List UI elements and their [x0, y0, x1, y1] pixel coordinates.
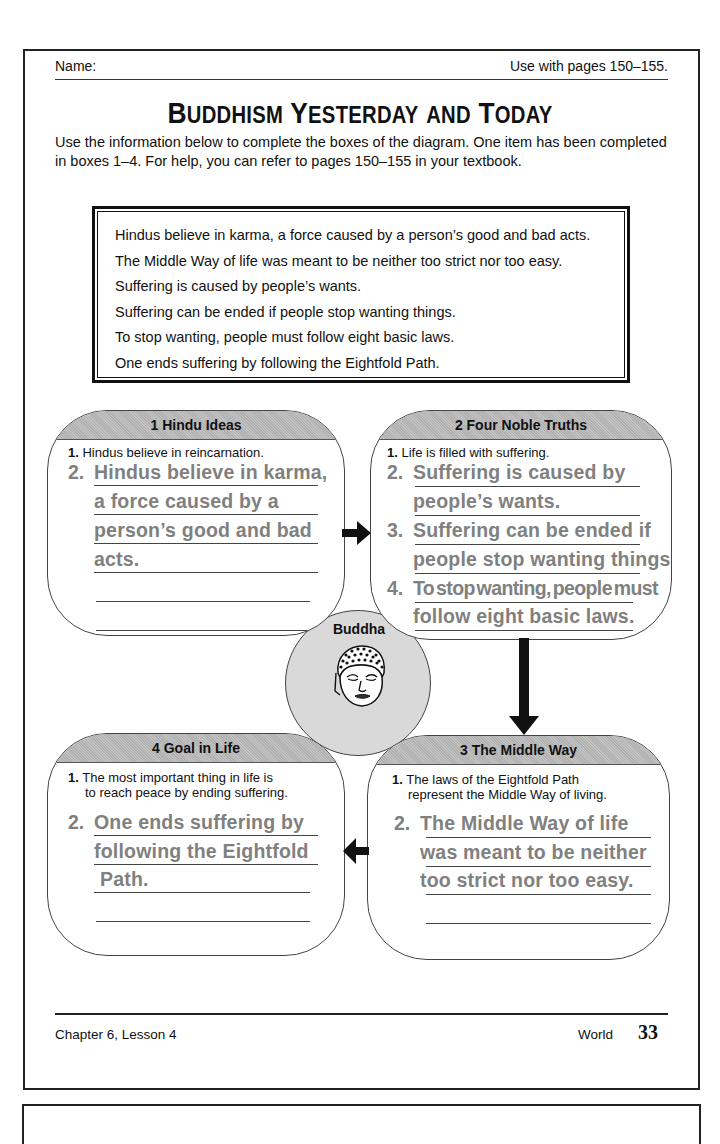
answer-line [426, 894, 651, 895]
info-item: To stop wanting, people must follow eigh… [115, 328, 624, 354]
given-text: Life is filled with suffering. [401, 445, 549, 460]
answer-line [426, 866, 651, 867]
answer-number: 2. [394, 812, 410, 835]
given-text: to reach peace by ending suffering. [85, 785, 288, 800]
item-number: 1. [68, 445, 79, 460]
answer-text: Hindus believe in karma, [94, 461, 327, 484]
answer-line [415, 486, 640, 487]
answer-text: acts. [94, 548, 139, 571]
arrow-right-icon [342, 520, 372, 546]
info-item: One ends suffering by following the Eigh… [115, 354, 624, 380]
info-item: Suffering is caused by people’s wants. [115, 277, 624, 303]
instructions: Use the information below to complete th… [55, 133, 675, 171]
answer-number: 2. [68, 461, 84, 484]
info-item: The Middle Way of life was meant to be n… [115, 252, 624, 278]
given-text: Hindus believe in reincarnation. [82, 445, 263, 460]
page-title: BUDDHISM YESTERDAY AND TODAY [43, 96, 677, 130]
answer-number: 2. [68, 811, 84, 834]
answer-line [94, 514, 318, 515]
subject-label: World [578, 1027, 613, 1042]
answer-text: too strict nor too easy. [420, 869, 634, 892]
answer-text: To stop wanting, people must [413, 577, 658, 600]
answer-line [415, 573, 640, 574]
info-box-inner: Hindus believe in karma, a force caused … [97, 211, 625, 378]
item-number: 1. [392, 772, 403, 787]
answer-text: Suffering is caused by [413, 461, 625, 484]
given-item: 1. Hindus believe in reincarnation. [68, 445, 264, 460]
box-title: 3 The Middle Way [368, 736, 669, 765]
title-cap: B [167, 96, 186, 129]
arrow-down-icon [508, 638, 540, 736]
arrow-left-icon [343, 837, 369, 865]
title-smallcaps: ESTERDAY [308, 102, 418, 128]
answer-line [426, 837, 651, 838]
answer-number: 3. [387, 519, 403, 542]
item-number: 1. [68, 770, 79, 785]
answer-text: a force caused by a [94, 490, 279, 513]
answer-text: Suffering can be ended if [413, 519, 651, 542]
answer-text: follow eight basic laws. [413, 605, 635, 628]
answer-line [415, 602, 633, 603]
answer-line [415, 544, 640, 545]
box-hindu-ideas: 1 Hindu Ideas 1. Hindus believe in reinc… [47, 410, 345, 636]
answer-line [94, 543, 318, 544]
box-middle-way: 3 The Middle Way 1. The laws of the Eigh… [367, 735, 670, 960]
answer-line [96, 630, 310, 631]
given-item: 1. The most important thing in life is [68, 770, 273, 785]
answer-line [96, 601, 310, 602]
chapter-lesson: Chapter 6, Lesson 4 [55, 1027, 177, 1042]
given-text: The laws of the Eightfold Path [406, 772, 579, 787]
pages-reference: Use with pages 150–155. [510, 58, 668, 74]
info-item: Suffering can be ended if people stop wa… [115, 303, 624, 329]
box-title: 1 Hindu Ideas [48, 411, 344, 440]
given-item: 1. Life is filled with suffering. [387, 445, 549, 460]
info-item: Hindus believe in karma, a force caused … [115, 226, 624, 252]
answer-number: 2. [387, 461, 403, 484]
answer-text: person’s good and bad [94, 519, 312, 542]
answer-line [94, 892, 310, 893]
answer-text: The Middle Way of life [420, 812, 628, 835]
next-page-frame [22, 1104, 701, 1144]
answer-line [96, 921, 310, 922]
answer-line [426, 923, 651, 924]
answer-line [94, 485, 318, 486]
answer-text: people’s wants. [413, 490, 560, 513]
answer-text: was meant to be neither [420, 841, 647, 864]
footer-rule [55, 1013, 668, 1015]
info-box: Hindus believe in karma, a force caused … [92, 206, 630, 383]
answer-line [415, 515, 640, 516]
title-smallcaps: ODAY [495, 102, 553, 128]
given-text: The most important thing in life is [82, 770, 273, 785]
name-label: Name: [55, 58, 96, 74]
answer-line [94, 572, 318, 573]
name-underline [55, 79, 668, 80]
title-smallcaps: UDDHISM [187, 102, 283, 128]
title-cap: T [478, 96, 494, 129]
answer-text: Path. [100, 868, 149, 891]
answer-line [94, 864, 318, 865]
given-text: represent the Middle Way of living. [408, 787, 607, 802]
box-goal-in-life: 4 Goal in Life 1. The most important thi… [47, 733, 345, 956]
answer-line [94, 835, 318, 836]
title-cap: Y [290, 96, 308, 129]
answer-text: people stop wanting things. [413, 548, 672, 571]
buddha-head-icon [330, 643, 392, 709]
given-item: 1. The laws of the Eightfold Path [392, 772, 579, 787]
title-smallcaps: AND [426, 102, 471, 128]
page-number: 33 [638, 1021, 658, 1044]
box-title: 4 Goal in Life [48, 734, 344, 763]
answer-number: 4. [387, 577, 403, 600]
item-number: 1. [387, 445, 398, 460]
box-title: 2 Four Noble Truths [371, 411, 671, 440]
box-four-noble-truths: 2 Four Noble Truths 1. Life is filled wi… [370, 410, 672, 640]
answer-text: following the Eightfold [94, 840, 309, 863]
answer-text: One ends suffering by [94, 811, 304, 834]
answer-line [415, 630, 633, 631]
